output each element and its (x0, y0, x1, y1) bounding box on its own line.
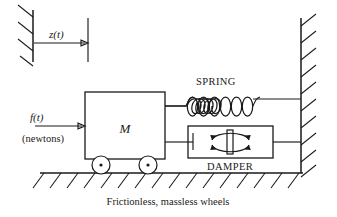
mass-label: M (119, 121, 132, 136)
reference-wall (18, 5, 33, 66)
damper (165, 126, 301, 158)
wheel-right-center-dot (146, 163, 149, 166)
wheel-right (139, 156, 157, 174)
force-units-label: (newtons) (22, 133, 64, 145)
diagram-caption: Frictionless, massless wheels (107, 196, 230, 207)
diagram-canvas: z(t) (0, 0, 337, 217)
force-label: f(t) (30, 111, 44, 124)
ground (33, 173, 303, 188)
reference-wall-hatching (18, 5, 33, 66)
force-arrow (35, 123, 85, 129)
spring (165, 94, 301, 116)
right-wall (301, 14, 316, 177)
right-wall-hatching (301, 14, 316, 177)
wheel-left (92, 156, 110, 174)
spring-label: SPRING (196, 76, 236, 87)
spring-exit-curve (253, 97, 260, 106)
displacement-arrow (34, 40, 88, 46)
mechanical-system-diagram: z(t) (0, 0, 337, 217)
damper-label: DAMPER (207, 161, 253, 172)
ground-hatching (33, 173, 299, 188)
wheel-left-center-dot (99, 163, 102, 166)
displacement-label: z(t) (48, 28, 64, 41)
